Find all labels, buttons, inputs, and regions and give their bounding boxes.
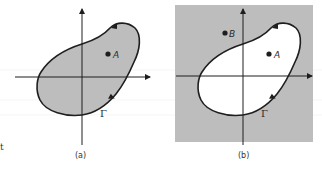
caption-a: (a) <box>75 151 86 160</box>
point-b-marker <box>222 30 227 35</box>
point-a-marker-b <box>266 51 271 56</box>
panel-a: A Γ (a) <box>15 9 150 160</box>
point-a-label: A <box>112 50 119 60</box>
caption-b: (b) <box>238 151 249 160</box>
panel-b: A B Γ (b) <box>175 5 313 160</box>
contour-region-a <box>37 23 139 115</box>
point-a-label-b: A <box>273 50 280 60</box>
figure-canvas: t A Γ (a) A B Γ (b) <box>0 0 322 170</box>
clipped-text-fragment: t <box>0 142 4 152</box>
contour-label-gamma-b: Γ <box>261 108 268 119</box>
contour-label-gamma: Γ <box>100 108 107 119</box>
point-b-label: B <box>229 29 235 39</box>
point-a-marker <box>105 51 110 56</box>
